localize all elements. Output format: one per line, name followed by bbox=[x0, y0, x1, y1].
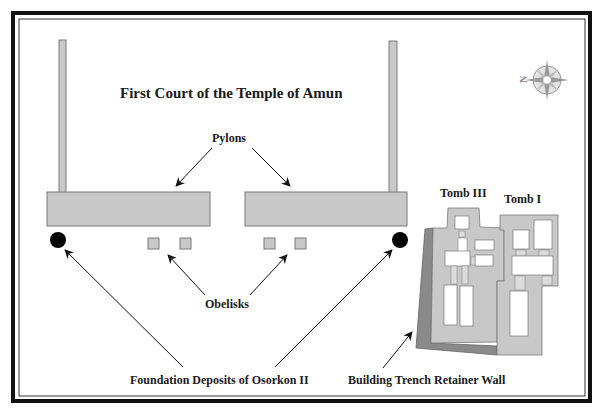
compass-north-label: N bbox=[518, 75, 529, 83]
arrow-retainer-wall bbox=[383, 332, 412, 368]
arrow-obelisks-left bbox=[168, 255, 205, 295]
obelisk-3 bbox=[264, 238, 275, 249]
label-foundation-deposits: Foundation Deposits of Osorkon II bbox=[130, 373, 309, 387]
foundation-deposit-right bbox=[392, 232, 408, 248]
obelisk-1 bbox=[148, 238, 159, 249]
tomb-iii-plan bbox=[416, 208, 504, 355]
arrow-pylons-left bbox=[176, 148, 212, 186]
label-tomb-i: Tomb I bbox=[504, 192, 542, 206]
obelisk-4 bbox=[295, 238, 306, 249]
temple-court-diagram: First Court of the Temple of Amun N Pylo… bbox=[0, 0, 604, 413]
label-retainer-wall: Building Trench Retainer Wall bbox=[348, 373, 506, 387]
compass-rose-icon: N bbox=[518, 60, 569, 100]
left-pylon bbox=[47, 192, 210, 226]
tomb-i-plan bbox=[497, 215, 558, 355]
arrow-deposit-left bbox=[65, 250, 183, 367]
arrow-pylons-right bbox=[252, 148, 290, 186]
arrow-obelisks-right bbox=[250, 255, 287, 295]
label-pylons: Pylons bbox=[212, 131, 246, 145]
right-pylon-mast bbox=[389, 41, 397, 193]
obelisk-2 bbox=[180, 238, 191, 249]
label-tomb-iii: Tomb III bbox=[440, 186, 487, 200]
left-pylon-mast bbox=[59, 40, 66, 193]
diagram-title: First Court of the Temple of Amun bbox=[120, 85, 343, 101]
foundation-deposit-left bbox=[50, 232, 66, 248]
arrow-deposit-right bbox=[275, 250, 392, 367]
label-obelisks: Obelisks bbox=[205, 297, 249, 311]
right-pylon bbox=[245, 192, 407, 226]
